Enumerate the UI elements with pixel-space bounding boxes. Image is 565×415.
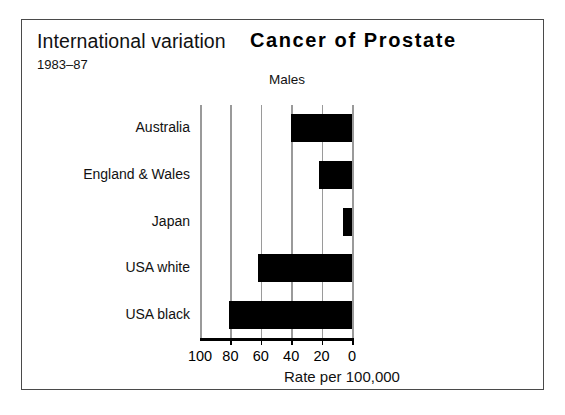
bar-england-wales [319, 161, 352, 189]
chart-period-label: 1983–87 [37, 57, 88, 72]
x-tick-80 [230, 338, 232, 345]
x-tick-60 [261, 338, 263, 345]
x-tick-0 [352, 338, 354, 345]
bar-japan [343, 208, 352, 236]
gridline-0 [352, 105, 354, 338]
x-tick-label-60: 60 [253, 348, 269, 364]
bar-usa-black [229, 301, 352, 329]
gridline-100 [200, 105, 202, 338]
bar-australia [291, 114, 352, 142]
x-tick-label-20: 20 [314, 348, 330, 364]
category-label-england-wales: England & Wales [83, 166, 190, 182]
category-label-japan: Japan [152, 213, 190, 229]
chart-figure-frame: International variation Cancer of Prosta… [21, 19, 544, 390]
x-tick-20 [322, 338, 324, 345]
x-tick-label-40: 40 [283, 348, 299, 364]
x-tick-label-0: 0 [348, 348, 356, 364]
category-label-usa-black: USA black [125, 306, 190, 322]
bar-usa-white [258, 254, 352, 282]
chart-title-international-variation: International variation [37, 30, 226, 53]
x-tick-label-100: 100 [188, 348, 212, 364]
x-axis-label: Rate per 100,000 [284, 368, 400, 385]
x-axis-line [200, 338, 352, 341]
page-title: Cancer of Prostate [250, 29, 457, 52]
plot-area [200, 105, 352, 338]
x-tick-40 [291, 338, 293, 345]
category-label-usa-white: USA white [125, 259, 190, 275]
category-label-australia: Australia [136, 119, 190, 135]
x-tick-label-80: 80 [222, 348, 238, 364]
chart-subtitle: Males [269, 72, 305, 87]
